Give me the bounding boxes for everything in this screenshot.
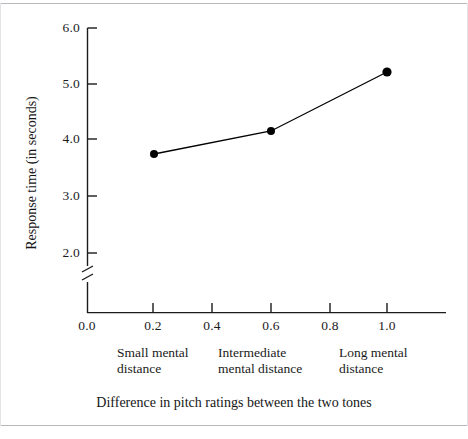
y-axis-break-mark bbox=[82, 266, 93, 280]
y-tick-label-4: 4.0 bbox=[38, 131, 80, 147]
category-label-line2: distance bbox=[117, 361, 189, 377]
category-label-intermediate-mental-distance: Intermediate mental distance bbox=[218, 345, 302, 377]
x-tick-label-0-6: 0.6 bbox=[251, 318, 291, 334]
category-label-line2: distance bbox=[339, 361, 408, 377]
x-tick-label-0-8: 0.8 bbox=[310, 318, 350, 334]
category-label-line1: Long mental bbox=[339, 345, 408, 361]
figure-container: 6.0 5.0 4.0 3.0 2.0 0.0 0.2 0.4 0.6 0.8 … bbox=[0, 0, 468, 439]
data-point-marker bbox=[382, 67, 391, 76]
y-tick-label-3: 3.0 bbox=[38, 188, 80, 204]
x-tick-label-0-2: 0.2 bbox=[133, 318, 173, 334]
data-point-marker bbox=[150, 150, 158, 158]
y-axis-title: Response time (in seconds) bbox=[24, 73, 40, 273]
data-point-marker bbox=[267, 127, 275, 135]
category-label-line1: Intermediate bbox=[218, 345, 302, 361]
x-tick-label-1-0: 1.0 bbox=[367, 318, 407, 334]
category-label-line2: mental distance bbox=[218, 361, 302, 377]
y-tick-label-6: 6.0 bbox=[38, 20, 80, 36]
y-tick-label-5: 5.0 bbox=[38, 76, 80, 92]
y-tick-label-2: 2.0 bbox=[38, 245, 80, 261]
x-tick-label-0-4: 0.4 bbox=[192, 318, 232, 334]
category-label-long-mental-distance: Long mental distance bbox=[339, 345, 408, 377]
category-label-line1: Small mental bbox=[117, 345, 189, 361]
x-axis-title: Difference in pitch ratings between the … bbox=[0, 395, 468, 411]
x-tick-label-0-0: 0.0 bbox=[67, 318, 107, 334]
category-label-small-mental-distance: Small mental distance bbox=[117, 345, 189, 377]
data-line-series-1 bbox=[154, 72, 387, 154]
